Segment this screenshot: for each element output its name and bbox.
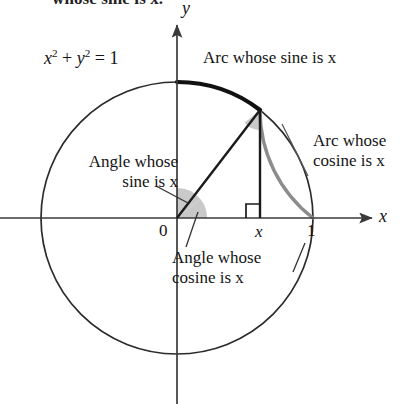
arc-cosine-line-1: Arc whose — [313, 131, 386, 150]
angle-cosine-line-2: cosine is x — [172, 268, 244, 287]
equation-rhs: = 1 — [90, 48, 118, 68]
arc-cosine-line-2: cosine is x — [313, 151, 385, 170]
equation-plus: + — [58, 48, 77, 68]
angle-sine-line-2: sine is x — [122, 172, 178, 191]
arc-cosine-annotation: Arc whose cosine is x — [313, 131, 409, 171]
angle-cosine-line-1: Angle whose — [172, 248, 261, 267]
arc-sine-highlight — [177, 82, 260, 110]
x-tick-label: x — [255, 222, 263, 242]
angle-sine-annotation: Angle whose sine is x — [60, 152, 178, 192]
y-axis-label: y — [182, 0, 190, 19]
angle-cosine-annotation: Angle whose cosine is x — [172, 248, 304, 288]
angle-sine-line-1: Angle whose — [89, 152, 178, 171]
equation-base-x: x — [44, 48, 52, 68]
unit-circle-figure: whose sine is x. y x x2 + y2 = 1 Arc who… — [0, 0, 411, 404]
x-axis-label: x — [379, 206, 387, 227]
right-angle-marker — [246, 204, 260, 218]
clipped-headline-text: whose sine is x. — [52, 0, 163, 9]
equation-base-y: y — [77, 48, 85, 68]
arc-cosine-highlight — [260, 110, 313, 218]
one-tick-label: 1 — [307, 221, 316, 241]
radius-segment — [177, 110, 260, 218]
circle-equation-label: x2 + y2 = 1 — [44, 47, 118, 69]
arc-sine-annotation: Arc whose sine is x — [203, 48, 336, 68]
leader-arc-cosine — [282, 124, 308, 176]
origin-tick-label: 0 — [159, 221, 168, 241]
